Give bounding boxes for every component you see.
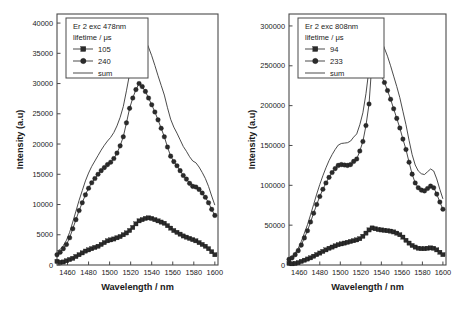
x-tick-label: 1520 [122, 268, 138, 277]
marker-circle [213, 213, 218, 218]
y-tick-label: 5000 [37, 230, 53, 239]
y-tick-label: 0 [280, 261, 284, 270]
marker-circle [403, 147, 408, 152]
marker-circle [130, 96, 135, 101]
marker-circle [326, 175, 331, 180]
y-tick-label: 250000 [260, 61, 285, 70]
series-line-233 [289, 60, 443, 259]
x-tick-label: 1560 [393, 268, 409, 277]
legend-entry-1: 94 [330, 45, 338, 54]
marker-circle [394, 116, 399, 121]
marker-circle [431, 185, 436, 190]
marker-circle [175, 164, 180, 169]
x-tick-label: 1600 [207, 268, 223, 277]
marker-circle [363, 123, 368, 128]
legend-marker-square [312, 47, 317, 52]
marker-circle [200, 191, 205, 196]
y-tick-label: 0 [49, 261, 53, 270]
marker-circle [156, 118, 161, 123]
y-tick-label: 25000 [32, 109, 53, 118]
marker-circle [209, 207, 214, 212]
y-tick-label: 100000 [260, 181, 285, 190]
marker-circle [206, 200, 211, 205]
y-tick-label: 10000 [32, 200, 53, 209]
marker-circle [77, 208, 82, 213]
marker-circle [434, 192, 439, 197]
marker-circle [89, 180, 94, 185]
marker-circle [412, 181, 417, 186]
marker-square [440, 253, 444, 257]
figure-container: 0500010000150002000025000300003500040000… [0, 0, 453, 310]
legend-title: Er 2 exc 478nm [73, 22, 126, 31]
y-tick-label: 300000 [260, 22, 285, 31]
x-tick-label: 1540 [373, 268, 389, 277]
y-tick-label: 200000 [260, 101, 285, 110]
x-tick-label: 1600 [434, 268, 450, 277]
marker-circle [143, 89, 148, 94]
marker-circle [437, 200, 442, 205]
marker-circle [165, 145, 170, 150]
marker-circle [112, 156, 117, 161]
marker-circle [400, 137, 405, 142]
marker-circle [314, 202, 319, 207]
x-axis-title: Wavelength / nm [331, 282, 404, 292]
x-tick-label: 1480 [311, 268, 327, 277]
legend-marker-circle [81, 58, 86, 63]
marker-square [213, 253, 217, 257]
marker-circle [357, 149, 362, 154]
y-tick-label: 30000 [32, 79, 53, 88]
y-tick-label: 40000 [32, 19, 53, 28]
marker-circle [96, 172, 101, 177]
marker-circle [385, 88, 390, 93]
marker-circle [127, 106, 132, 111]
x-tick-label: 1500 [332, 268, 348, 277]
right-chart-svg: 0500001000001500002000002500003000001460… [227, 0, 453, 310]
legend-marker-square [81, 47, 86, 52]
marker-circle [118, 144, 123, 149]
legend-subtitle: lifetime / μs [305, 33, 344, 42]
marker-circle [203, 195, 208, 200]
x-tick-label: 1480 [80, 268, 96, 277]
marker-circle [409, 172, 414, 177]
marker-circle [366, 102, 371, 107]
marker-circle [197, 187, 202, 192]
marker-circle [317, 194, 322, 199]
marker-circle [184, 177, 189, 182]
legend-entry-2: 240 [98, 57, 111, 66]
legend-title: Er 2 exc 808nm [305, 22, 358, 31]
marker-circle [440, 207, 445, 212]
legend-entry-3: sum [98, 69, 112, 78]
legend-entry-2: 233 [330, 57, 343, 66]
y-axis-title: Intensity (a.u) [247, 110, 257, 170]
marker-circle [397, 126, 402, 131]
marker-circle [360, 139, 365, 144]
y-tick-label: 15000 [32, 170, 53, 179]
marker-circle [320, 187, 325, 192]
marker-circle [115, 151, 120, 156]
marker-circle [388, 97, 393, 102]
x-tick-label: 1540 [143, 268, 159, 277]
marker-circle [181, 173, 186, 178]
marker-circle [159, 126, 164, 131]
legend-marker-circle [312, 58, 317, 63]
marker-circle [153, 110, 158, 115]
y-tick-label: 35000 [32, 49, 53, 58]
marker-circle [323, 181, 328, 186]
marker-circle [149, 102, 154, 107]
series-line-240 [57, 84, 215, 255]
marker-circle [168, 154, 173, 159]
y-tick-label: 150000 [260, 141, 285, 150]
x-tick-label: 1580 [414, 268, 430, 277]
marker-circle [382, 80, 387, 85]
marker-circle [80, 200, 85, 205]
x-tick-label: 1580 [186, 268, 202, 277]
right-chart-panel: 0500001000001500002000002500003000001460… [227, 0, 453, 310]
legend-entry-1: 105 [98, 45, 111, 54]
left-chart-panel: 0500010000150002000025000300003500040000… [0, 0, 227, 310]
marker-circle [93, 176, 98, 181]
marker-circle [406, 160, 411, 165]
x-tick-label: 1560 [165, 268, 181, 277]
marker-circle [162, 134, 167, 139]
legend-entry-3: sum [330, 69, 344, 78]
legend-subtitle: lifetime / μs [73, 33, 112, 42]
